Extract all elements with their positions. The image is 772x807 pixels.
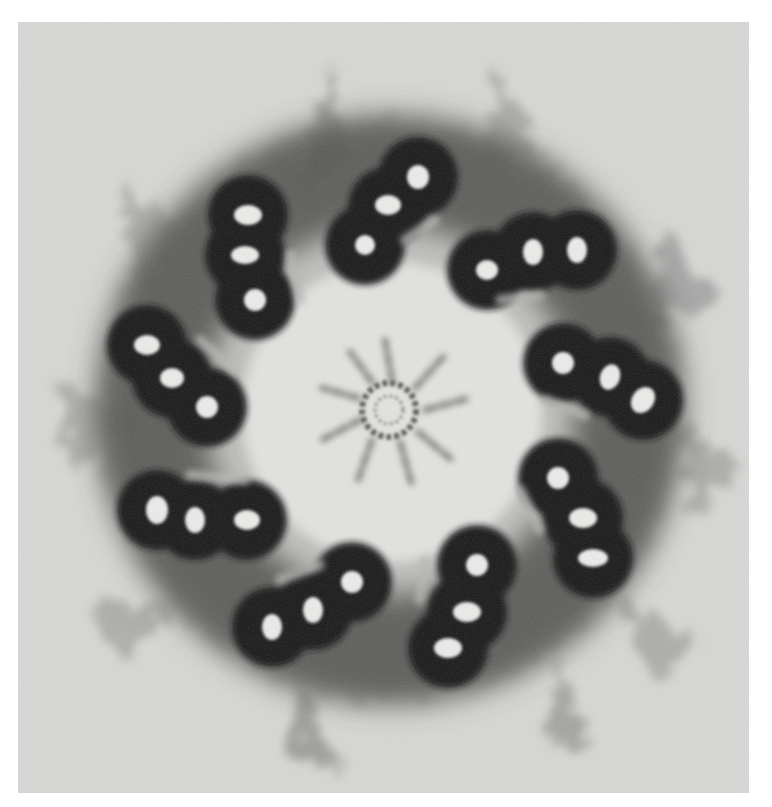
film-grain [18, 22, 749, 793]
centriole-micrograph: Centriole cross-section (electron microg… [18, 22, 749, 793]
micrograph-canvas [18, 22, 749, 793]
